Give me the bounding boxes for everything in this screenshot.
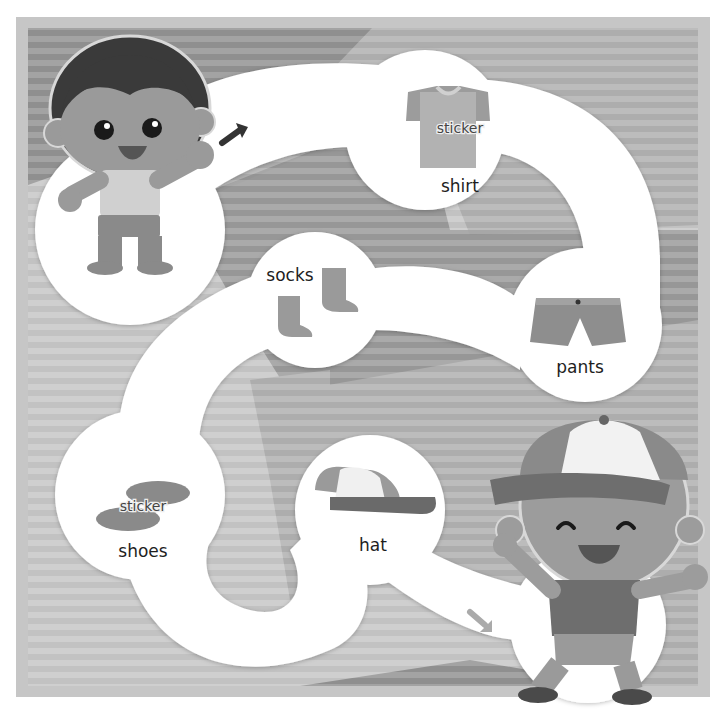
shirt-sticker-text: sticker (437, 120, 484, 136)
hat-label: hat (359, 535, 387, 555)
socks-label: socks (266, 265, 313, 285)
pants-label: pants (556, 357, 604, 377)
shoes-label: shoes (118, 541, 167, 561)
shirt-label: shirt (441, 176, 479, 196)
maze-scene: sticker shirt socks pants sticker shoes … (0, 0, 727, 714)
shoes-sticker-text: sticker (120, 498, 167, 514)
